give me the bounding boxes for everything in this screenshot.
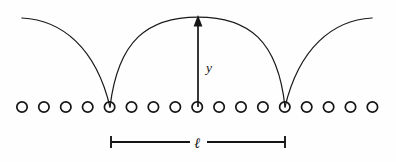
obstacle-circle	[126, 102, 136, 112]
obstacle-circle	[258, 102, 268, 112]
bow-out-height-label: y	[204, 60, 212, 75]
obstacle-circle	[236, 102, 246, 112]
obstacle-circle	[17, 102, 27, 112]
pinning-spacing-label: ℓ	[194, 135, 200, 151]
obstacle-circle	[214, 102, 224, 112]
right-partial-arch-curve	[285, 18, 372, 107]
obstacle-circle	[39, 102, 49, 112]
physics-figure: y ℓ	[0, 0, 396, 162]
obstacle-circle	[367, 102, 377, 112]
figure-canvas: y ℓ	[0, 0, 396, 162]
obstacle-circle	[61, 102, 71, 112]
obstacle-circle	[323, 102, 333, 112]
obstacle-circle	[170, 102, 180, 112]
obstacle-circle	[345, 102, 355, 112]
obstacle-circle	[302, 102, 312, 112]
obstacle-circle	[148, 102, 158, 112]
obstacle-circle	[83, 102, 93, 112]
left-partial-arch-curve	[22, 18, 110, 107]
